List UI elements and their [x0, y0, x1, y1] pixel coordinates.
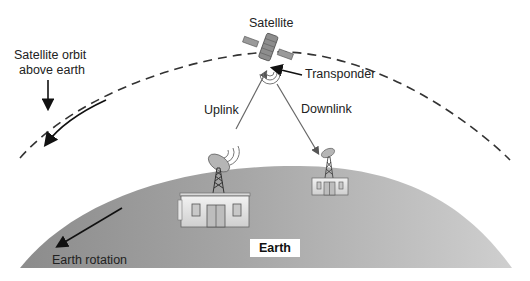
uplink-building-roof: [180, 193, 250, 196]
uplink-label: Uplink: [204, 103, 239, 118]
downlink-label: Downlink: [301, 102, 352, 117]
earth-label: Earth: [250, 239, 300, 257]
transponder-label: Transponder: [305, 67, 375, 82]
orbit-label-line2: above earth: [19, 63, 85, 78]
satellite-icon: [239, 26, 297, 68]
uplink-line: [236, 72, 266, 129]
orbit-direction-arrow: [46, 100, 106, 144]
orbit-label-line1: Satellite orbit: [14, 48, 86, 63]
downlink-line: [277, 84, 318, 153]
earth-rotation-label: Earth rotation: [52, 253, 127, 268]
satellite-label: Satellite: [249, 16, 293, 31]
